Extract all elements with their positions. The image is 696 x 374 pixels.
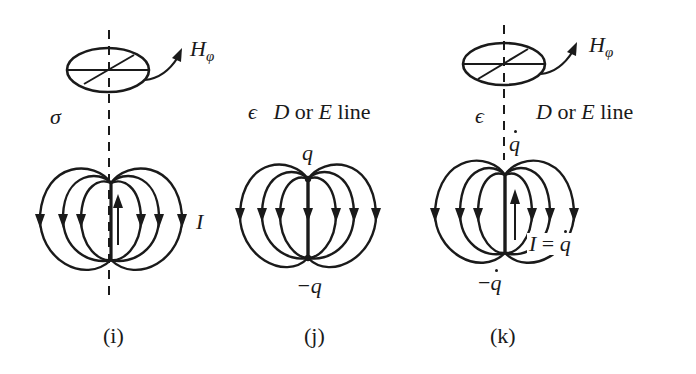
caption-k: (k) [490,325,516,347]
top-charge-label-j: q [302,142,313,164]
e-symbol-k: E [581,99,594,124]
q-dot-rhs: q [560,233,571,255]
epsilon-symbol-k: ϵ [475,105,484,127]
top-charge-rate-label-k: q [509,133,520,155]
panel-k-drawing [430,25,579,263]
caption-i: (i) [103,325,124,347]
positive-charge-dot-j [305,176,311,182]
q-dot-symbol: q [509,133,520,155]
h-ring-icon-i [67,48,182,92]
panel-j-drawing [235,165,381,268]
bottom-charge-rate-label-k: −q [478,272,501,294]
epsilon-symbol-j: ϵ [248,99,257,124]
current-label-i: I [196,211,203,233]
phi-subscript: φ [206,48,214,64]
or-word-k: or [557,99,575,124]
d-symbol-k: D [536,99,552,124]
d-or-e-line-label-k: D or E line [536,101,633,123]
caption-j: (j) [304,325,325,347]
h-phi-label-k: Hφ [589,34,613,56]
or-word-j: or [295,99,313,124]
e-symbol-j: E [319,99,332,124]
figure-stage: Hφ σ I (i) ϵ D or E line q −q (j) Hφ ϵ D… [0,0,696,374]
h-ring-icon-k [463,42,577,85]
h-symbol-k: H [589,32,605,57]
equals-sign: = [542,231,554,256]
d-symbol-j: D [273,99,289,124]
h-phi-label-i: Hφ [190,38,214,60]
panel-i-drawing [35,30,187,295]
bottom-charge-label-j: −q [296,275,322,297]
sigma-label: σ [50,106,61,128]
current-equation-label-k: I = q [527,233,573,255]
negative-charge-dot-j [305,255,311,261]
line-word-j: line [338,99,371,124]
d-or-e-line-label-j: ϵ D or E line [248,101,371,123]
neg-q-dot-symbol: q [490,272,501,294]
line-word-k: line [600,99,633,124]
h-symbol: H [190,36,206,61]
phi-subscript-k: φ [605,44,613,60]
